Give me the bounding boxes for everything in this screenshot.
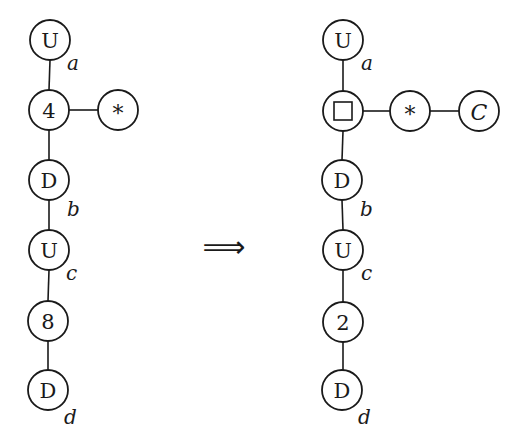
node-L7-star: * (98, 90, 138, 130)
node-L6: D d (28, 370, 77, 429)
graph-transformation-diagram: U a 4 D b U c 8 D d * ⟹ (0, 0, 517, 448)
node-label: 8 (41, 310, 54, 334)
star-icon: * (113, 101, 124, 126)
edge-L4-L5 (48, 270, 49, 301)
node-label: U (334, 239, 352, 263)
node-subscript: b (67, 197, 80, 221)
implies-arrow-icon: ⟹ (202, 229, 245, 264)
node-L2: 4 (29, 90, 69, 130)
node-subscript: c (66, 261, 77, 285)
node-subscript: d (64, 405, 77, 429)
node-L1: U a (30, 20, 79, 75)
node-R4: U c (323, 230, 372, 285)
node-R6: D d (322, 370, 371, 429)
node-label: 2 (336, 311, 349, 335)
node-label: D (334, 379, 351, 403)
node-label: D (41, 169, 58, 193)
node-L5: 8 (28, 301, 68, 341)
node-label: D (40, 379, 57, 403)
node-subscript: b (360, 197, 373, 221)
node-subscript: a (361, 51, 373, 75)
node-R3: D b (322, 160, 373, 221)
node-label: C (471, 100, 488, 125)
node-R1: U a (323, 20, 373, 75)
node-R5: 2 (323, 302, 363, 342)
node-L3: D b (29, 160, 80, 221)
node-R7-star: * (390, 91, 430, 131)
node-label: U (40, 239, 58, 263)
node-label: U (334, 29, 352, 53)
node-subscript: c (361, 261, 372, 285)
star-icon: * (405, 102, 416, 127)
node-subscript: a (67, 51, 79, 75)
edge-R3-R4 (342, 200, 343, 230)
node-R8-script-c: C (459, 91, 499, 131)
node-R2-square (323, 91, 363, 131)
node-subscript: d (358, 405, 371, 429)
node-label: 4 (42, 99, 55, 123)
edge-L1-L2 (49, 60, 50, 90)
right-graph: U a D b U c 2 D d * (322, 20, 499, 429)
left-graph: U a 4 D b U c 8 D d * (28, 20, 138, 429)
node-label: U (41, 29, 59, 53)
edge-R2-R3 (342, 131, 343, 160)
node-L4: U c (29, 230, 77, 285)
node-label: D (334, 169, 351, 193)
